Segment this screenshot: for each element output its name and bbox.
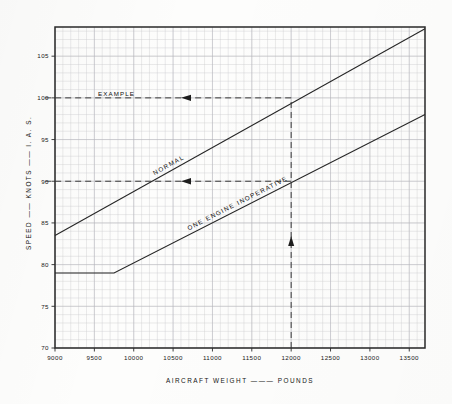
x-tick-label: 10500 [163, 354, 183, 361]
up-arrow-icon [288, 236, 294, 246]
y-tick-label: 95 [41, 136, 49, 143]
x-tick-label: 11500 [242, 354, 261, 361]
x-tick-label: 9500 [87, 354, 103, 361]
y-axis-title: SPEED —— KNOTS —— I. A. S. [25, 116, 32, 250]
x-tick-label: 11000 [203, 354, 222, 361]
y-tick-label: 75 [41, 303, 49, 310]
left-arrow-icon-90 [181, 178, 191, 184]
x-tick-label: 10000 [124, 354, 144, 361]
left-arrow-icon-100 [181, 95, 191, 101]
curve-one-engine-inoperative [55, 115, 425, 273]
y-tick-label: 105 [37, 52, 49, 59]
y-tick-labels: 707580859095100105 [37, 52, 49, 351]
x-tick-label: 13000 [360, 354, 380, 361]
x-tick-labels: 9000950010000105001100011500120001250013… [47, 354, 419, 361]
x-axis-title: AIRCRAFT WEIGHT ——— POUNDS [166, 377, 314, 384]
grid-minor [55, 27, 425, 348]
y-tick-label: 90 [41, 178, 49, 185]
y-tick-label: 80 [41, 261, 49, 268]
grid-major [55, 27, 425, 348]
y-tick-label: 100 [37, 94, 49, 101]
example-label: EXAMPLE [98, 90, 135, 97]
x-tick-label: 12000 [281, 354, 301, 361]
x-tick-label: 12500 [321, 354, 341, 361]
y-tick-label: 70 [41, 344, 49, 351]
x-tick-label: 9000 [47, 354, 63, 361]
performance-chart: 9000950010000105001100011500120001250013… [0, 0, 452, 404]
y-tick-label: 85 [41, 219, 49, 226]
x-tick-label: 13500 [400, 354, 420, 361]
plot-frame [55, 27, 425, 348]
